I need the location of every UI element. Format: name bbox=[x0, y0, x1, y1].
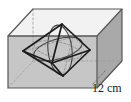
cube-faces bbox=[8, 9, 122, 88]
geometry-figure: 12 cm bbox=[0, 0, 131, 102]
dimension-label: 12 cm bbox=[92, 82, 122, 95]
